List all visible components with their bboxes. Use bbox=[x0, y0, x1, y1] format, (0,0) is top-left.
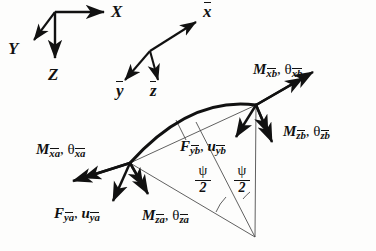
moment-xa-symbol: M bbox=[36, 141, 49, 157]
comma-separator: , bbox=[277, 61, 281, 77]
moment-zb-subscript: zb bbox=[296, 130, 305, 141]
comma-separator: , bbox=[306, 123, 310, 139]
half-angle-right-label: ψ 2 bbox=[233, 164, 251, 195]
curved-beam-force-diagram: X Y Z x y z Mxa, θxa Fya, uya Mza, θza M… bbox=[0, 0, 376, 251]
moment-za-label: Mza, θza bbox=[142, 208, 189, 225]
half-angle-left-label: ψ 2 bbox=[194, 164, 212, 195]
end-a-vectors-group bbox=[73, 163, 148, 201]
local-xbar-axis-label: x bbox=[203, 3, 212, 20]
local-zbar-axis-label: z bbox=[150, 82, 157, 99]
moment-xa-subscript: xa bbox=[49, 148, 60, 159]
local-axes-group bbox=[125, 22, 196, 80]
comma-separator: , bbox=[60, 141, 64, 157]
disp-yb-symbol: u bbox=[208, 138, 216, 154]
radius-line-to-node-b bbox=[255, 103, 256, 237]
local-ybar-axis-label: y bbox=[116, 82, 124, 99]
local-xbar-axis-arrow bbox=[150, 22, 196, 51]
theta-zb-subscript: zb bbox=[320, 130, 329, 141]
theta-xa-subscript: xa bbox=[75, 148, 86, 159]
global-axes-group bbox=[34, 12, 104, 58]
local-ybar-axis-arrow bbox=[125, 51, 150, 80]
moment-xa-label: Mxa, θxa bbox=[36, 142, 85, 159]
force-ya-symbol: F bbox=[54, 205, 64, 221]
comma-separator: , bbox=[74, 205, 78, 221]
moment-zb-label: Mzb, θzb bbox=[283, 124, 330, 141]
theta-za-subscript: za bbox=[179, 214, 188, 225]
two-denominator-right: 2 bbox=[233, 181, 251, 196]
disp-ya-subscript: ya bbox=[90, 212, 100, 223]
comma-separator: , bbox=[200, 138, 204, 154]
global-z-axis-label: Z bbox=[48, 66, 58, 83]
global-y-axis-arrow bbox=[34, 12, 55, 40]
moment-zb-symbol: M bbox=[283, 123, 296, 139]
angle-arc-left bbox=[216, 197, 226, 212]
moment-xb-symbol: M bbox=[253, 61, 266, 77]
xbar-glyph: x bbox=[203, 3, 212, 20]
disp-ya-symbol: u bbox=[82, 205, 90, 221]
psi-numerator-right: ψ bbox=[233, 164, 251, 179]
local-zbar-axis-arrow bbox=[150, 51, 158, 80]
force-ya-subscript: ya bbox=[64, 212, 74, 223]
global-y-axis-label: Y bbox=[8, 40, 18, 57]
moment-za-subscript: za bbox=[155, 214, 164, 225]
moment-xb-double-arrow-head2 bbox=[256, 78, 303, 105]
theta-xa-symbol: θ bbox=[67, 141, 74, 157]
moment-xb-subscript: xb bbox=[266, 68, 277, 79]
force-yb-symbol: F bbox=[180, 138, 190, 154]
theta-xb-symbol: θ bbox=[284, 61, 291, 77]
ybar-glyph: y bbox=[116, 82, 124, 99]
force-ya-label: Fya, uya bbox=[54, 206, 100, 223]
two-denominator-left: 2 bbox=[194, 181, 212, 196]
psi-numerator-left: ψ bbox=[194, 164, 212, 179]
zbar-glyph: z bbox=[150, 82, 157, 99]
disp-yb-subscript: yb bbox=[216, 145, 226, 156]
moment-za-symbol: M bbox=[142, 207, 155, 223]
global-x-axis-label: X bbox=[111, 3, 122, 20]
moment-xb-label: Mxb, θxb bbox=[253, 62, 302, 79]
moment-zb-double-arrow-head2 bbox=[256, 105, 268, 133]
force-yb-label: Fyb, uyb bbox=[180, 139, 226, 156]
theta-xb-subscript: xb bbox=[292, 68, 303, 79]
comma-separator: , bbox=[165, 207, 169, 223]
force-yb-subscript: yb bbox=[190, 145, 200, 156]
